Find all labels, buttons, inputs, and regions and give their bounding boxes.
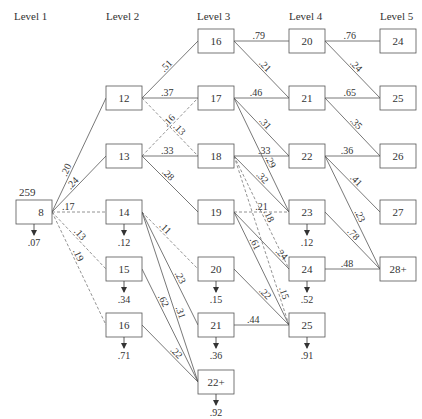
- edge-line: [142, 156, 198, 212]
- state-node: 16: [198, 29, 234, 53]
- exit-probability-label: .12: [118, 237, 131, 248]
- state-label: 19: [211, 206, 223, 218]
- state-node: 12: [106, 86, 142, 110]
- edge-probability-label: .76: [344, 30, 357, 41]
- transition-edge: .24: [234, 212, 290, 269]
- state-label: 14: [119, 206, 131, 218]
- dashed-edge-line: [142, 212, 198, 269]
- edge-probability-label: .28: [160, 166, 177, 183]
- state-node: 20: [289, 29, 325, 53]
- exit-probability-label: .91: [301, 350, 314, 361]
- state-label: 22+: [207, 376, 224, 388]
- transition-edge: .20: [52, 98, 106, 212]
- transition-edge: .33: [142, 145, 198, 156]
- transition-edge: .36: [325, 145, 380, 156]
- edge-probability-label: .48: [341, 258, 354, 269]
- transition-edge: .24: [52, 156, 106, 212]
- edge-probability-label: .15: [277, 285, 291, 300]
- state-node: 27: [380, 200, 416, 224]
- state-label: 12: [119, 92, 130, 104]
- state-box: [16, 200, 52, 224]
- edge-probability-label: .11: [157, 220, 173, 236]
- transition-edge: .22: [142, 325, 198, 382]
- exit-probability-label: .36: [210, 350, 223, 361]
- edge-probability-label: .37: [161, 87, 174, 98]
- edge-probability-label: .44: [247, 314, 260, 325]
- start-count: 259: [19, 186, 36, 198]
- edge-line: [142, 212, 198, 382]
- state-node: 18: [198, 144, 234, 168]
- state-label: 25: [302, 319, 314, 331]
- transition-edge: .41: [325, 156, 380, 212]
- transition-edge: .28: [142, 156, 198, 212]
- state-label: 23: [302, 206, 314, 218]
- state-node: 20.15: [198, 257, 234, 305]
- state-node: 13: [106, 144, 142, 168]
- edge-probability-label: .13: [72, 226, 89, 243]
- state-label: 22: [302, 150, 313, 162]
- edge-probability-label: .31: [257, 115, 274, 132]
- edge-probability-label: .24: [348, 57, 365, 74]
- state-node: 28+: [380, 257, 416, 281]
- exit-probability-label: .92: [210, 407, 223, 418]
- exit-probability-label: .71: [118, 350, 131, 361]
- state-node: 22+.92: [198, 370, 234, 418]
- transition-edge: .65: [325, 87, 380, 98]
- exit-probability-label: .12: [301, 237, 314, 248]
- state-label: 21: [302, 92, 313, 104]
- transition-edge: .11: [142, 212, 198, 269]
- state-label: 27: [393, 206, 405, 218]
- state-node: 22: [289, 144, 325, 168]
- exit-probability-label: .52: [301, 294, 314, 305]
- transition-edge: .23: [325, 156, 380, 269]
- state-label: 20: [302, 35, 314, 47]
- state-label: 21: [211, 319, 222, 331]
- state-node: 8.07: [16, 200, 52, 248]
- edge-probability-label: .17: [62, 201, 75, 212]
- state-node: 19: [198, 200, 234, 224]
- transition-edge: .48: [325, 258, 380, 269]
- state-node: 21: [289, 86, 325, 110]
- transition-diagram: .20.24.17.13.19.51.37.13.16.33.28.11.23.…: [0, 0, 422, 419]
- edge-probability-label: .21: [257, 57, 274, 74]
- edge-probability-label: .23: [353, 208, 368, 224]
- edge-line: [325, 156, 380, 212]
- edge-probability-label: .31: [174, 305, 188, 320]
- edge-probability-label: .41: [348, 172, 365, 189]
- state-label: 16: [211, 35, 223, 47]
- edge-probability-label: .35: [348, 115, 365, 132]
- state-node: 15.34: [106, 257, 142, 305]
- state-label: 24: [393, 35, 405, 47]
- state-node: 21.36: [198, 313, 234, 361]
- state-label: 15: [119, 263, 131, 275]
- transition-edge: .31: [142, 212, 198, 382]
- exit-probability-label: .34: [118, 294, 131, 305]
- edge-probability-label: .33: [258, 145, 271, 156]
- state-node: 16.71: [106, 313, 142, 361]
- edge-line: [142, 269, 198, 382]
- edge-probability-label: .46: [250, 87, 263, 98]
- transition-edge: .79: [234, 30, 289, 41]
- transition-edge: .61: [234, 212, 289, 325]
- state-node: 14.12: [106, 200, 142, 248]
- state-label: 28+: [389, 263, 406, 275]
- edge-probability-label: .23: [173, 269, 188, 285]
- edge-line: [234, 212, 289, 325]
- state-label: 20: [211, 263, 223, 275]
- exit-probability-label: .07: [28, 237, 41, 248]
- edge-probability-label: .65: [344, 87, 357, 98]
- edge-probability-label: .33: [161, 145, 174, 156]
- edge-probability-label: .22: [168, 344, 185, 361]
- state-label: 8: [38, 206, 44, 218]
- transition-edge: .21: [234, 201, 289, 212]
- transition-edge: .46: [234, 87, 289, 98]
- edge-probability-label: .24: [274, 245, 291, 262]
- transition-edge: .37: [142, 87, 198, 98]
- state-node: 17: [198, 86, 234, 110]
- transition-edge: .44: [234, 314, 289, 325]
- state-node: 26: [380, 144, 416, 168]
- edge-probability-label: .32: [254, 169, 271, 186]
- edge-probability-label: .36: [341, 145, 354, 156]
- state-node: 24: [380, 29, 416, 53]
- transition-edge: .62: [142, 269, 198, 382]
